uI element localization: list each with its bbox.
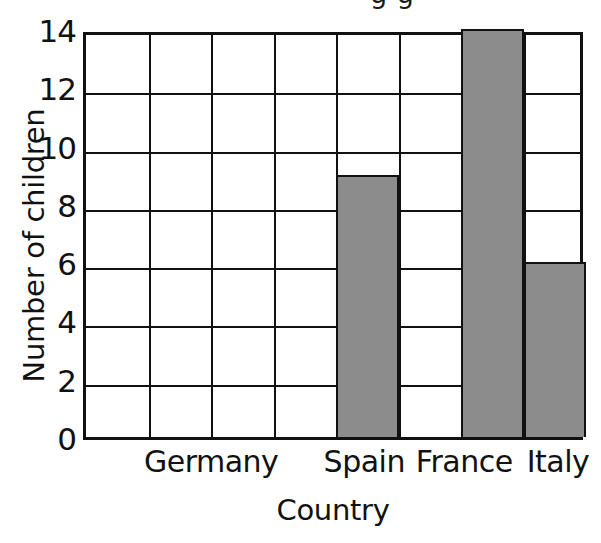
bar-spain: [336, 175, 399, 437]
x-tick-label-france: France: [416, 447, 513, 477]
x-tick-label-germany: Germany: [144, 447, 278, 477]
plot-area: [83, 32, 583, 440]
bar-chart-figure: g g Number of children 02468101214 Germa…: [0, 0, 601, 543]
x-tick-label-italy: Italy: [527, 447, 590, 477]
bar-france: [461, 29, 524, 437]
y-axis-title: Number of children: [20, 36, 49, 456]
gridline-vertical: [399, 35, 401, 437]
cropped-title-fragment: g g: [370, 0, 601, 9]
gridline-vertical: [211, 35, 213, 437]
x-axis-tick-labels: GermanySpainFranceItaly: [83, 447, 583, 491]
x-tick-label-spain: Spain: [324, 447, 405, 477]
gridline-vertical: [274, 35, 276, 437]
plot-grid-and-bars: [86, 35, 580, 437]
gridline-vertical: [149, 35, 151, 437]
bar-italy: [524, 262, 587, 437]
x-axis-title: Country: [83, 496, 583, 525]
